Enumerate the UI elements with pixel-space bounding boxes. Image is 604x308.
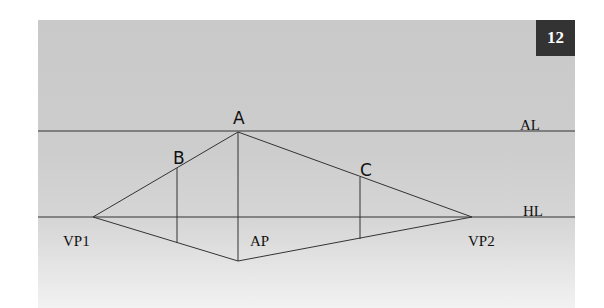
- label-ap: AP: [250, 233, 269, 249]
- label-b: B: [173, 148, 185, 168]
- label-al: AL: [520, 117, 540, 133]
- line-bottom-vp2: [238, 217, 472, 261]
- label-c: C: [360, 160, 372, 180]
- perspective-diagram: A B C AL HL VP1 VP2 AP: [0, 0, 604, 308]
- label-vp1: VP1: [63, 233, 90, 249]
- line-vp1-bottom: [93, 217, 238, 261]
- label-a: A: [233, 108, 245, 128]
- label-hl: HL: [523, 203, 543, 219]
- line-a-vp2: [238, 132, 472, 217]
- label-vp2: VP2: [468, 233, 495, 249]
- line-vp1-a: [93, 132, 238, 217]
